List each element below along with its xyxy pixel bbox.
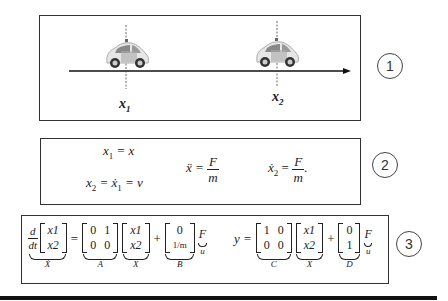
matrix-C: 10 00 C [256, 223, 292, 269]
equation-x1-def: x1 = x [103, 143, 134, 161]
equation-acceleration: ẍ = Fm [186, 155, 219, 184]
bottom-divider [0, 296, 437, 300]
output-equation: y = 10 00 C x1x2 X + 01 D F u [234, 223, 372, 269]
step-badge-1: 1 [377, 53, 403, 79]
input-u-output: F u [364, 227, 371, 256]
input-u: F u [199, 227, 206, 256]
matrix-B: 01/m B [165, 223, 195, 269]
label-x1: x1 [119, 96, 131, 114]
matrix-A: 01 00 A [82, 223, 118, 269]
state-vector-X-output: x1x2 X [296, 223, 323, 269]
matrix-D: 01 D [338, 223, 360, 269]
equation-x2-dot: ẋ2 = Fm. [268, 155, 307, 184]
car-icon [253, 37, 301, 70]
state-vector-X: x1x2 X [122, 223, 149, 269]
step-badge-3: 3 [396, 231, 422, 257]
step-badge-2: 2 [372, 152, 398, 178]
car-icon [103, 38, 151, 71]
state-derivative: ddt x1x2 Ẋ [28, 223, 67, 269]
label-x2: x2 [272, 89, 284, 107]
equation-x2-def: x2 = ẋ1 = v [86, 175, 143, 193]
state-equation: ddt x1x2 Ẋ = 01 00 A x1x2 X + 01/m B F u [28, 223, 206, 269]
